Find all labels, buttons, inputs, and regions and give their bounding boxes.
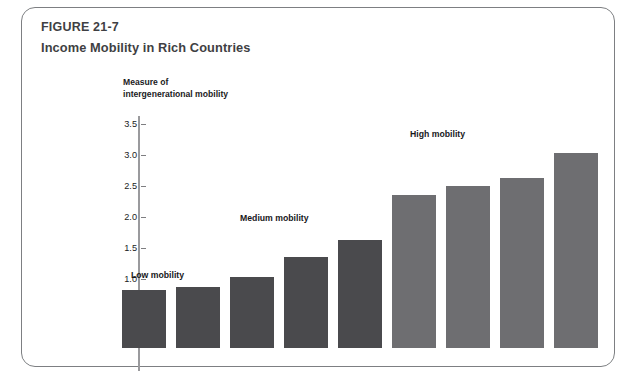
bar xyxy=(338,240,382,348)
bar xyxy=(500,178,544,349)
y-axis-tick: 3.5 xyxy=(104,118,146,130)
y-axis-tick: 1.5 xyxy=(104,242,146,254)
y-axis-tick-label: 1.5 xyxy=(124,242,137,254)
y-axis-tick-mark xyxy=(141,217,146,218)
y-axis-tick-label: 2.0 xyxy=(124,211,137,223)
group-label: Low mobility xyxy=(131,270,184,280)
y-axis-tick: 2.5 xyxy=(104,180,146,192)
y-axis-tick-mark xyxy=(141,124,146,125)
bar xyxy=(284,257,328,348)
y-axis-label-line-2: intergenerational mobility xyxy=(123,89,228,101)
bar xyxy=(554,153,598,348)
y-axis-tick-label: 3.0 xyxy=(124,149,137,161)
bar-chart-plot: Measure of intergenerational mobility 0.… xyxy=(22,8,616,368)
group-label: Medium mobility xyxy=(240,213,309,223)
bar xyxy=(176,287,220,348)
figure-card: FIGURE 21-7 Income Mobility in Rich Coun… xyxy=(21,7,615,367)
y-axis-tick: 2.0 xyxy=(104,211,146,223)
bar xyxy=(446,186,490,348)
y-axis-tick-mark xyxy=(141,155,146,156)
y-axis-tick-mark xyxy=(141,248,146,249)
group-label: High mobility xyxy=(410,129,465,139)
bar xyxy=(392,195,436,348)
y-axis-label: Measure of intergenerational mobility xyxy=(123,77,228,100)
y-axis-tick-label: 2.5 xyxy=(124,180,137,192)
y-axis-tick: 3.0 xyxy=(104,149,146,161)
y-axis-tick-mark xyxy=(141,186,146,187)
y-axis-tick-label: 3.5 xyxy=(124,118,137,130)
bar xyxy=(230,277,274,348)
y-axis-label-line-1: Measure of xyxy=(123,77,228,89)
bar xyxy=(122,290,166,348)
